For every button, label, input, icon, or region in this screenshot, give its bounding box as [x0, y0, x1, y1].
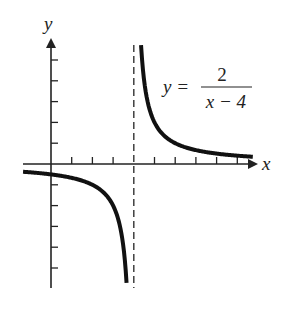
y-axis-label: y: [42, 13, 53, 34]
equation-numerator: 2: [217, 64, 227, 85]
hyperbola-graph: y x y = 2 x − 4: [0, 0, 286, 314]
equation: y = 2 x − 4: [161, 64, 252, 112]
curve-left-branch: [23, 172, 127, 283]
equation-denominator: x − 4: [205, 91, 247, 112]
equation-lhs: y =: [161, 76, 189, 97]
x-axis-label: x: [261, 153, 271, 174]
